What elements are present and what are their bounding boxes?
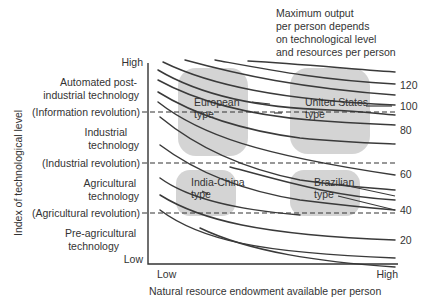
band-agricultural: Agricultural technology <box>84 177 140 202</box>
y-axis-label: Index of technological level <box>12 110 24 236</box>
iso-label-60: 60 <box>400 168 412 180</box>
x-axis-label: Natural resource endowment available per… <box>149 285 381 297</box>
y-tick-low: Low <box>124 253 144 265</box>
revolution-information: (Information revolution) <box>32 106 140 118</box>
diagram-canvas: Maximum output per person depends on tec… <box>0 0 428 308</box>
band-industrial: Industrial technology <box>84 126 139 151</box>
annotation-text: Maximum output per person depends on tec… <box>276 7 396 58</box>
revolution-agricultural: (Agricultural revolution) <box>32 207 140 219</box>
revolution-industrial: (Industrial revolution) <box>42 157 140 169</box>
x-tick-high: High <box>376 268 398 280</box>
iso-label-120: 120 <box>400 79 418 91</box>
iso-label-100: 100 <box>400 100 418 112</box>
x-tick-low: Low <box>157 268 177 280</box>
band-pre-agricultural: Pre-agricultural technology <box>65 227 139 252</box>
iso-label-80: 80 <box>400 124 412 136</box>
iso-label-20: 20 <box>400 234 412 246</box>
band-automated-post-industrial: Automated post- industrial technology <box>43 76 140 101</box>
y-tick-high: High <box>121 56 143 68</box>
iso-label-40: 40 <box>400 204 412 216</box>
